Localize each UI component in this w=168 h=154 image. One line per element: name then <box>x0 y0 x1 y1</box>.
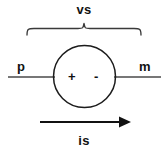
polarity-plus-symbol: + <box>68 70 76 83</box>
current-direction-arrow <box>40 117 131 128</box>
source-voltage-label: vs <box>0 3 168 16</box>
terminal-m-label: m <box>139 60 151 73</box>
source-current-label: is <box>0 134 168 147</box>
circuit-diagram-figure: + - vs p m is <box>0 0 168 154</box>
voltage-span-brace-icon <box>27 24 141 36</box>
polarity-minus-symbol: - <box>94 70 98 83</box>
voltage-source-circle <box>54 46 116 108</box>
terminal-p-label: p <box>17 60 25 73</box>
circuit-diagram-canvas <box>0 0 168 154</box>
